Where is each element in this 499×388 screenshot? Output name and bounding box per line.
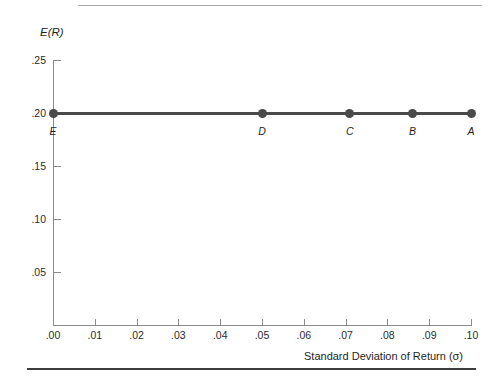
figure: E(R) .05.10.15.20.25 .00.01.02.03.04.05.…	[0, 0, 499, 388]
x-tick-mark	[137, 319, 138, 326]
x-tick-mark	[95, 319, 96, 326]
series-line-segment	[350, 112, 413, 115]
bottom-divider-rule	[27, 368, 476, 370]
data-point-label: E	[38, 126, 68, 137]
data-point-label: A	[456, 126, 486, 137]
data-point-label: D	[247, 126, 277, 137]
y-tick-label: .15	[20, 161, 46, 172]
x-tick-mark	[387, 319, 388, 326]
x-tick-label: .07	[329, 330, 363, 341]
x-tick-label: .06	[287, 330, 321, 341]
x-tick-label: .04	[203, 330, 237, 341]
data-point-marker	[258, 109, 267, 118]
x-tick-mark	[178, 319, 179, 326]
data-point-marker	[408, 109, 417, 118]
x-tick-mark	[471, 319, 472, 326]
series-line-segment	[262, 112, 350, 115]
y-axis-title: E(R)	[40, 26, 64, 38]
series-line-segment	[53, 112, 262, 115]
x-tick-label: .08	[370, 330, 404, 341]
x-tick-label: .09	[412, 330, 446, 341]
x-tick-mark	[262, 319, 263, 326]
x-tick-mark	[346, 319, 347, 326]
y-tick-mark	[54, 166, 61, 167]
y-axis-line	[53, 60, 54, 326]
data-point-marker	[467, 109, 476, 118]
y-tick-mark	[54, 219, 61, 220]
x-tick-mark	[304, 319, 305, 326]
chart-plot-area: E(R) .05.10.15.20.25 .00.01.02.03.04.05.…	[0, 0, 499, 388]
data-point-label: C	[335, 126, 365, 137]
data-point-label: B	[397, 126, 427, 137]
x-tick-label: .10	[454, 330, 488, 341]
y-tick-label: .20	[20, 108, 46, 119]
x-axis-title: Standard Deviation of Return (σ)	[304, 350, 463, 362]
y-tick-label: .10	[20, 214, 46, 225]
y-tick-label: .25	[20, 55, 46, 66]
x-tick-label: .00	[36, 330, 70, 341]
x-tick-label: .03	[161, 330, 195, 341]
data-point-marker	[49, 109, 58, 118]
x-tick-mark	[53, 319, 54, 326]
y-tick-mark	[54, 60, 61, 61]
x-tick-mark	[220, 319, 221, 326]
series-line-segment	[412, 112, 471, 115]
x-tick-label: .05	[245, 330, 279, 341]
data-point-marker	[345, 109, 354, 118]
y-tick-mark	[54, 272, 61, 273]
x-tick-mark	[429, 319, 430, 326]
y-tick-label: .05	[20, 267, 46, 278]
x-tick-label: .01	[78, 330, 112, 341]
x-tick-label: .02	[120, 330, 154, 341]
